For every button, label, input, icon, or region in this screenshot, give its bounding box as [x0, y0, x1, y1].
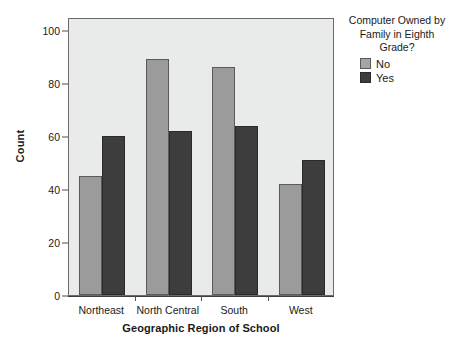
legend-title: Computer Owned byFamily in EighthGrade?: [338, 14, 456, 55]
bar-west-no: [279, 184, 302, 295]
y-axis-tick-label: 20: [48, 237, 60, 249]
legend-item-yes: Yes: [338, 72, 456, 84]
x-axis-tick-label: Northeast: [78, 304, 124, 316]
y-axis-title: Count: [14, 106, 26, 186]
x-axis-tick-mark: [135, 296, 136, 301]
x-axis-tick-labels: NortheastNorth CentralSouthWest: [68, 304, 334, 320]
y-axis-ticks: 020406080100: [30, 0, 68, 355]
legend-title-line: Computer Owned by: [338, 14, 456, 28]
x-axis-tick-mark: [201, 296, 202, 301]
legend: Computer Owned byFamily in EighthGrade? …: [338, 14, 456, 84]
legend-entries: NoYes: [338, 58, 456, 84]
y-axis-tick-label: 0: [54, 290, 60, 302]
bar-north-central-yes: [169, 131, 192, 295]
y-axis-tick-label: 100: [42, 25, 60, 37]
bar-south-no: [212, 67, 235, 295]
plot-bars-container: [69, 19, 333, 295]
x-axis-tick-label: West: [289, 304, 313, 316]
y-axis-tick-label: 60: [48, 131, 60, 143]
bar-northeast-no: [79, 176, 102, 295]
x-axis-title: Geographic Region of School: [68, 322, 334, 334]
legend-item-label: No: [376, 58, 390, 70]
legend-item-label: Yes: [376, 72, 394, 84]
bar-chart-figure: Count 020406080100 NortheastNorth Centra…: [0, 0, 459, 355]
y-axis-tick-label: 80: [48, 78, 60, 90]
light-gray-swatch: [360, 58, 371, 69]
x-axis-tick-marks: [68, 296, 334, 302]
x-axis-tick-label: North Central: [137, 304, 199, 316]
bar-west-yes: [302, 160, 325, 295]
bar-northeast-yes: [102, 136, 125, 295]
x-axis-tick-mark: [268, 296, 269, 301]
x-axis-tick-label: South: [221, 304, 248, 316]
legend-item-no: No: [338, 58, 456, 70]
bar-north-central-no: [146, 59, 169, 295]
legend-title-line: Grade?: [338, 41, 456, 55]
bar-south-yes: [235, 126, 258, 295]
dark-gray-swatch: [360, 72, 371, 83]
plot-area: [68, 18, 334, 296]
legend-title-line: Family in Eighth: [338, 28, 456, 42]
y-axis-tick-label: 40: [48, 184, 60, 196]
